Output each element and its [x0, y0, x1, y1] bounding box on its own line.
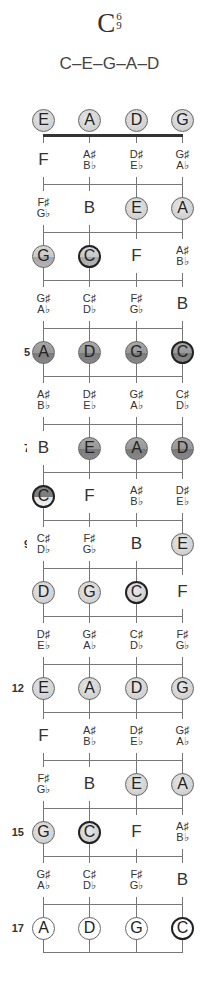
- fret-cell: G♯A♭: [27, 863, 61, 897]
- fret-cell: C♯D♭: [73, 863, 107, 897]
- enharmonic-name: B♭: [83, 160, 96, 171]
- fret-cell: F: [27, 143, 61, 177]
- fret-cell: E: [27, 103, 61, 137]
- accidental-note-label: A♯B♭: [83, 724, 96, 748]
- chord-note-marker: D: [125, 109, 148, 132]
- fret-cell: B: [27, 431, 61, 465]
- enharmonic-name: E♭: [37, 640, 50, 651]
- enharmonic-name: G♭: [130, 304, 144, 315]
- fret-cell: D♯E♭: [120, 143, 154, 177]
- accidental-note-label: D♯E♭: [37, 628, 50, 652]
- chord-note-marker: E: [171, 533, 194, 556]
- accidental-note-label: D♯E♭: [176, 484, 189, 508]
- accidental-note-label: C♯D♭: [130, 628, 143, 652]
- accidental-note-label: F♯G♭: [83, 532, 97, 556]
- fret-cell: C: [73, 815, 107, 849]
- fret-cell: A♯B♭: [166, 239, 200, 273]
- fret-cell: G♯A♭: [166, 719, 200, 753]
- chord-note-marker: A: [125, 437, 148, 460]
- chord-note-marker: E: [78, 437, 101, 460]
- fret-line-2: [43, 232, 183, 233]
- fret-cell: F: [120, 239, 154, 273]
- fret-cell: F: [73, 479, 107, 513]
- enharmonic-name: D♭: [176, 400, 189, 411]
- fret-cell: D♯E♭: [166, 479, 200, 513]
- note-label: F: [131, 820, 141, 844]
- enharmonic-name: A♭: [82, 640, 96, 651]
- chord-note-marker: G: [32, 245, 55, 268]
- enharmonic-name: E♭: [176, 496, 189, 507]
- accidental-note-label: G♯A♭: [175, 148, 189, 172]
- enharmonic-name: B♭: [176, 832, 189, 843]
- accidental-note-label: G♯A♭: [36, 868, 50, 892]
- accidental-note-label: A♯B♭: [130, 484, 143, 508]
- fret-cell: D♯E♭: [27, 623, 61, 657]
- fret-cell: B: [73, 191, 107, 225]
- fret-line-9: [43, 568, 183, 569]
- accidental-note-label: C♯D♭: [176, 388, 189, 412]
- accidental-note-label: D♯E♭: [130, 724, 143, 748]
- fret-cell: C♯D♭: [120, 623, 154, 657]
- note-label: F: [84, 484, 94, 508]
- chord-note-marker: D: [125, 677, 148, 700]
- fret-cell: G♯A♭: [120, 383, 154, 417]
- fret-cell: D: [120, 671, 154, 705]
- chord-note-marker: D: [78, 917, 101, 940]
- fret-cell: F♯G♭: [27, 191, 61, 225]
- enharmonic-name: D♭: [83, 880, 96, 891]
- fret-cell: B: [73, 767, 107, 801]
- enharmonic-name: A♭: [36, 880, 50, 891]
- fret-line-6: [43, 424, 183, 425]
- fret-cell: A♯B♭: [166, 815, 200, 849]
- fret-cell: B: [120, 527, 154, 561]
- chord-note-marker: G: [32, 821, 55, 844]
- fret-line-3: [43, 280, 183, 281]
- fret-cell: C♯D♭: [27, 527, 61, 561]
- fret-cell: F♯G♭: [73, 527, 107, 561]
- fret-cell: D♯E♭: [120, 719, 154, 753]
- enharmonic-name: A♭: [175, 736, 189, 747]
- fretboard: 579121517EADGFA♯B♭D♯E♭G♯A♭F♯G♭BEAGCFA♯B♭…: [0, 0, 219, 1003]
- fret-cell: F: [120, 815, 154, 849]
- fret-cell: F♯G♭: [166, 623, 200, 657]
- note-label: F: [38, 148, 48, 172]
- fret-cell: A♯B♭: [73, 719, 107, 753]
- accidental-note-label: G♯A♭: [36, 292, 50, 316]
- fret-cell: G: [120, 911, 154, 945]
- fret-line-15: [43, 856, 183, 857]
- chord-note-marker: G: [171, 109, 194, 132]
- fret-cell: A: [166, 767, 200, 801]
- fret-cell: F: [27, 719, 61, 753]
- enharmonic-name: G♭: [83, 544, 97, 555]
- accidental-note-label: D♯E♭: [130, 148, 143, 172]
- enharmonic-name: G♭: [37, 784, 51, 795]
- fret-cell: C♯D♭: [73, 287, 107, 321]
- fret-cell: C♯D♭: [166, 383, 200, 417]
- accidental-note-label: F♯G♭: [37, 196, 51, 220]
- accidental-note-label: F♯G♭: [37, 772, 51, 796]
- fret-cell: G: [166, 103, 200, 137]
- fret-line-17: [43, 952, 183, 953]
- chord-note-marker: D: [171, 437, 194, 460]
- fret-cell: F: [166, 575, 200, 609]
- fret-cell: G: [166, 671, 200, 705]
- fret-cell: A: [73, 103, 107, 137]
- fret-cell: G: [120, 335, 154, 369]
- accidental-note-label: G♯A♭: [82, 628, 96, 652]
- root-note-marker: C: [125, 581, 148, 604]
- accidental-note-label: C♯D♭: [83, 868, 96, 892]
- accidental-note-label: C♯D♭: [37, 532, 50, 556]
- note-label: B: [84, 772, 95, 796]
- fret-cell: G♯A♭: [166, 143, 200, 177]
- fret-line-13: [43, 760, 183, 761]
- chord-note-marker: G: [78, 581, 101, 604]
- note-label: F: [177, 580, 187, 604]
- fret-cell: G♯A♭: [73, 623, 107, 657]
- fret-cell: C: [166, 911, 200, 945]
- nut: [43, 134, 183, 137]
- enharmonic-name: E♭: [83, 400, 96, 411]
- chord-note-marker: A: [78, 109, 101, 132]
- fret-cell: D: [120, 103, 154, 137]
- chord-note-marker: D: [78, 341, 101, 364]
- enharmonic-name: B♭: [130, 496, 143, 507]
